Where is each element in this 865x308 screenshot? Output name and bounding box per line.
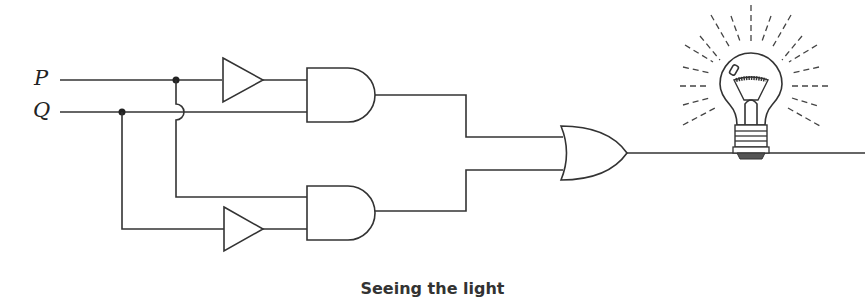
bulb-glass [720,53,782,125]
wire-and-bottom-out [375,170,563,211]
and-gate-bottom [307,186,375,240]
wire-and-top-out [375,95,563,137]
light-bulb-icon [680,5,830,159]
wire-q-branch [122,112,224,229]
and-gate-top [307,68,375,122]
input-label-p: P [34,68,48,89]
or-gate [561,126,627,180]
not-gate-bottom [224,207,263,251]
circuit-diagram [0,0,865,308]
input-label-q: Q [33,100,50,121]
wire-p-branch [176,80,307,197]
not-gate-top [223,58,263,102]
figure-caption: Seeing the light [0,279,865,298]
bulb-base [733,125,769,159]
